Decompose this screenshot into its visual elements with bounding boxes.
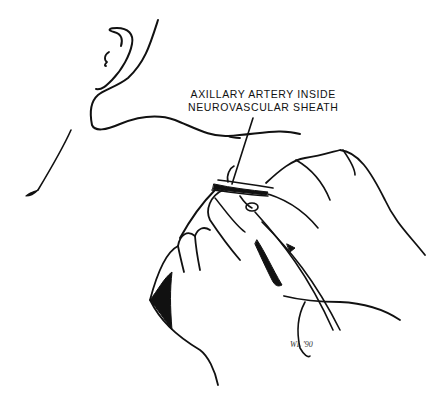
label-line-2: NEUROVASCULAR SHEATH <box>188 101 338 114</box>
label-pointer <box>232 118 253 184</box>
line-drawing <box>0 0 445 394</box>
wrist-shadow <box>255 240 282 286</box>
left-thumb-inner <box>215 198 245 232</box>
hand-shadow <box>150 272 172 330</box>
right-hand-top <box>266 150 425 255</box>
chest-stroke <box>38 130 71 190</box>
right-hand-finger <box>343 150 355 175</box>
chest-stroke-tip <box>26 190 38 196</box>
catheter-tube-2 <box>255 212 333 330</box>
left-hand-palm <box>150 246 218 385</box>
medical-illustration: AXILLARY ARTERY INSIDE NEUROVASCULAR SHE… <box>0 0 445 394</box>
left-thumb <box>208 190 240 260</box>
left-hand-knuckle-2 <box>178 233 195 272</box>
left-hand-knuckle-1 <box>195 228 210 270</box>
label-line-1: AXILLARY ARTERY INSIDE <box>188 88 338 101</box>
right-hand-knuckle-1 <box>296 160 330 200</box>
right-hand-knuckle-2 <box>260 192 318 228</box>
ear-inner <box>105 52 109 66</box>
artist-signature: WL '90 <box>290 340 313 349</box>
annotation-label: AXILLARY ARTERY INSIDE NEUROVASCULAR SHE… <box>188 88 338 114</box>
